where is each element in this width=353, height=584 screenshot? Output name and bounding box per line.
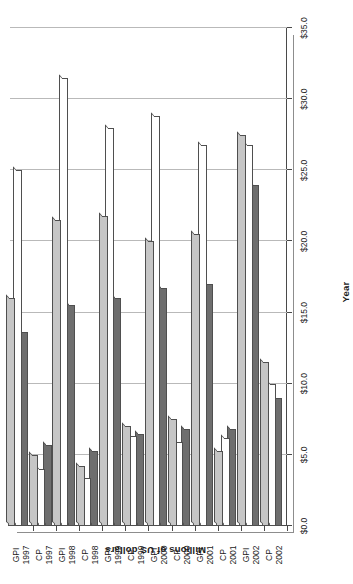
category-label-line1: GPI (241, 532, 251, 578)
category-label-line2: 2001 (205, 532, 215, 578)
axis-tick (287, 98, 292, 99)
bar (147, 241, 154, 526)
category-tick (195, 526, 196, 531)
bar (45, 445, 52, 526)
bar (170, 419, 177, 526)
bar (8, 298, 15, 526)
bar (84, 478, 91, 526)
value-axis-tick-label: $15.0 (299, 302, 309, 323)
category-tick (56, 526, 57, 531)
bar (31, 455, 38, 526)
bar-group: GPI1998 (56, 28, 79, 526)
bar (61, 78, 68, 526)
rotated-figure-wrapper: Millions of US dollars Year $0.0$5.0$10.… (0, 0, 353, 584)
bar (21, 333, 28, 527)
bar-group: CP2002 (264, 28, 287, 526)
bar (114, 298, 121, 526)
category-label-line1: CP (80, 532, 90, 578)
category-tick (125, 526, 126, 531)
category-axis-label: GPI2000 (149, 532, 169, 578)
bar (107, 128, 114, 526)
bar-chart: Millions of US dollars Year $0.0$5.0$10.… (0, 0, 353, 584)
category-tick (102, 526, 103, 531)
category-label-line2: 1998 (67, 532, 77, 578)
bar (38, 469, 45, 526)
category-label-line1: CP (34, 532, 44, 578)
bar (206, 284, 213, 526)
category-tick (33, 526, 34, 531)
bar (176, 442, 183, 526)
bar (229, 429, 236, 526)
bar (200, 145, 207, 526)
category-axis-label: GPI1998 (57, 532, 77, 578)
category-label-line1: GPI (149, 532, 159, 578)
category-tick (287, 526, 288, 531)
bar (101, 216, 108, 526)
category-axis-label: GPI1999 (103, 532, 123, 578)
category-label-line1: CP (218, 532, 228, 578)
category-axis-label: CP2002 (264, 532, 284, 578)
category-axis-label: CP1998 (80, 532, 100, 578)
bar (54, 220, 61, 526)
x-axis-title: Year (340, 0, 351, 584)
category-tick (148, 526, 149, 531)
category-axis-label: CP2000 (172, 532, 192, 578)
value-axis-tick-label: $0.0 (299, 518, 309, 535)
plot-area: $0.0$5.0$10.0$15.0$20.0$25.0$30.0$35.0 G… (10, 28, 287, 526)
value-axis-tick-label: $10.0 (299, 373, 309, 394)
category-tick (218, 526, 219, 531)
bar (183, 429, 190, 526)
bar (216, 451, 223, 526)
bar (269, 384, 276, 526)
category-axis-label: GPI1997 (11, 532, 31, 578)
category-label-line1: GPI (11, 532, 21, 578)
axis-tick (287, 312, 292, 313)
category-axis-label: CP1999 (126, 532, 146, 578)
bar (137, 434, 144, 526)
axis-tick (287, 169, 292, 170)
category-tick (264, 526, 265, 531)
bar (153, 116, 160, 526)
category-tick (241, 526, 242, 531)
axis-tick (287, 27, 292, 28)
bar (78, 466, 85, 526)
bar (130, 436, 137, 526)
category-label-line1: GPI (57, 532, 67, 578)
category-axis-label: CP2001 (218, 532, 238, 578)
category-label-line2: 2002 (251, 532, 261, 578)
bar (239, 135, 246, 526)
bar (262, 362, 269, 526)
bar (252, 185, 259, 526)
value-axis-tick-label: $5.0 (299, 447, 309, 464)
bar (193, 234, 200, 526)
category-axis-label: CP1997 (34, 532, 54, 578)
category-label-line2: 1999 (113, 532, 123, 578)
category-tick (172, 526, 173, 531)
axis-tick (287, 383, 292, 384)
category-label-line1: CP (126, 532, 136, 578)
axis-tick (287, 454, 292, 455)
category-label-line2: 2002 (274, 532, 284, 578)
category-label-line2: 1997 (44, 532, 54, 578)
category-label-line1: CP (264, 532, 274, 578)
bar (124, 426, 131, 526)
category-label-line1: GPI (103, 532, 113, 578)
bar (160, 288, 167, 526)
value-axis-tick-label: $20.0 (299, 231, 309, 252)
bar (223, 438, 230, 526)
category-label-line2: 1999 (136, 532, 146, 578)
category-label-line2: 1998 (90, 532, 100, 578)
axis-tick (287, 240, 292, 241)
bar (246, 145, 253, 526)
value-axis-tick-label: $25.0 (299, 160, 309, 181)
category-label-line2: 2000 (182, 532, 192, 578)
category-tick (79, 526, 80, 531)
bar (91, 451, 98, 526)
value-axis-tick-label: $30.0 (299, 89, 309, 110)
category-label-line2: 2000 (159, 532, 169, 578)
bar (68, 305, 75, 526)
category-label-line2: 2001 (228, 532, 238, 578)
bar (15, 170, 22, 526)
bar (275, 398, 282, 526)
category-label-line1: GPI (195, 532, 205, 578)
